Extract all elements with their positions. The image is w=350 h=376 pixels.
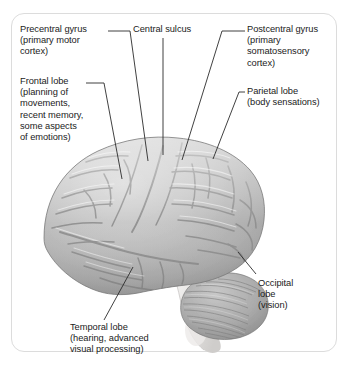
label-frontal-lobe: Frontal lobe (planning of movements, rec… bbox=[20, 76, 120, 143]
label-central-sulcus: Central sulcus bbox=[133, 24, 228, 35]
brain-diagram-figure: Precentral gyrus (primary motor cortex) … bbox=[0, 0, 350, 376]
label-parietal-lobe: Parietal lobe (body sensations) bbox=[247, 86, 345, 108]
label-postcentral-gyrus: Postcentral gyrus (primary somatosensory… bbox=[247, 24, 345, 69]
label-occipital-lobe: Occipital lobe (vision) bbox=[258, 278, 338, 312]
label-precentral-gyrus: Precentral gyrus (primary motor cortex) bbox=[20, 24, 120, 58]
label-temporal-lobe: Temporal lobe (hearing, advanced visual … bbox=[70, 322, 195, 356]
